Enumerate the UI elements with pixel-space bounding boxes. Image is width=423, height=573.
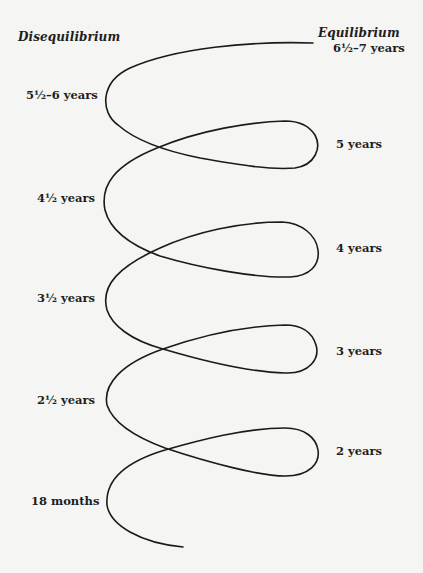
stage-label-5-years: 5 years xyxy=(336,137,382,151)
development-spiral-diagram: Disequilibrium Equilibrium 5½–6 years 4½… xyxy=(0,0,423,573)
stage-label-3-half-years: 3½ years xyxy=(37,291,95,305)
stage-label-5-half-to-6-years: 5½–6 years xyxy=(26,88,98,102)
stage-label-3-years: 3 years xyxy=(336,344,382,358)
stage-label-6-half-to-7-years: 6½–7 years xyxy=(333,41,405,55)
spiral-curve xyxy=(0,0,423,573)
spiral-path xyxy=(104,43,318,547)
stage-label-4-half-years: 4½ years xyxy=(37,191,95,205)
stage-label-4-years: 4 years xyxy=(336,241,382,255)
stage-label-2-years: 2 years xyxy=(336,444,382,458)
stage-label-18-months: 18 months xyxy=(31,494,99,508)
stage-label-2-half-years: 2½ years xyxy=(37,393,95,407)
